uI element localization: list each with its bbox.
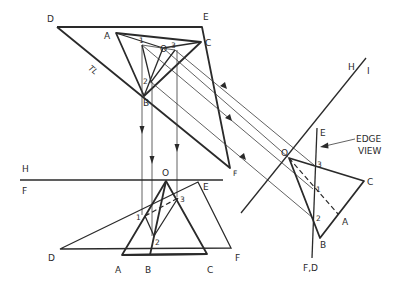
label-b-aux: B [320,240,326,250]
projector-aux-o [163,48,289,158]
base-front [122,254,207,255]
label-d-top: D [47,14,54,24]
label-2-top: 2 [143,77,148,86]
label-o-aux: O [281,148,288,158]
edge-view-leader [325,139,355,146]
diagram-canvas: D E A C B O 1 3 2 F TL H F O E 3 1 2 D F… [0,0,404,291]
arrow-left-icon [320,143,329,149]
edge-view-text-1: EDGE [356,134,382,144]
label-1-front: 1 [136,213,141,222]
label-e-front: E [203,182,209,192]
arrow-up-left-icon [225,114,232,121]
label-d-front: D [48,253,55,263]
edge-view-text-2: VIEW [358,146,381,156]
label-f-top: F [233,169,237,178]
label-3-front: 3 [180,195,185,204]
label-true-length: TL [86,64,99,77]
label-2-front: 2 [155,238,160,247]
label-c-top: C [205,38,211,48]
label-e-top: E [203,12,209,22]
arrow-down-icon [150,156,155,164]
arrow-down-icon [140,126,145,134]
fold-line-hi-line [241,58,366,213]
fold-label-i: I [367,66,370,76]
fold-line-hf: H F [20,164,223,196]
label-fd-aux: F,D [303,263,318,273]
label-o-top: O [160,44,167,54]
label-1-top: 1 [139,36,144,45]
label-3-top: 3 [171,41,176,50]
front-view: O E 3 1 2 D F A B C [48,168,240,275]
label-o-front: O [162,168,169,178]
label-b-top: B [143,98,149,108]
fold-label-h-aux: H [348,62,355,72]
label-c-aux: C [367,177,373,187]
fold-label-h: H [22,164,29,174]
fold-label-f: F [22,186,27,196]
label-f-front: F [235,253,240,263]
label-a-top: A [104,31,111,41]
label-c-front: C [207,265,213,275]
descriptive-geometry-diagram: D E A C B O 1 3 2 F TL H F O E 3 1 2 D F… [0,0,404,291]
arrow-down-icon [175,144,180,152]
label-b-front: B [145,265,151,275]
label-3-aux: 3 [317,160,322,169]
label-e-aux: E [320,128,326,138]
parallel-projectors [142,45,314,218]
label-1-aux: 1 [316,185,321,194]
label-a-aux: A [342,217,349,227]
label-a-front: A [115,265,122,275]
fold-line-hi: H I [241,58,370,213]
label-2-aux: 2 [316,214,321,223]
